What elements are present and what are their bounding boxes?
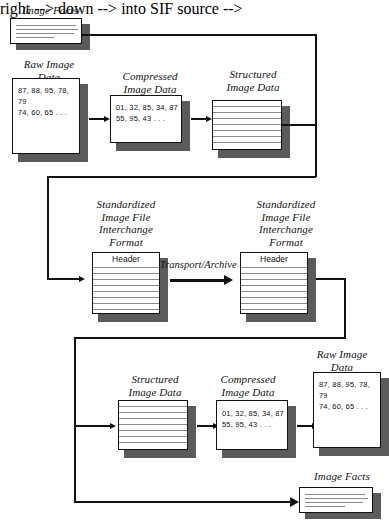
caption-structured-image-data-top: Structured Image Data xyxy=(210,68,296,93)
raw-image-data-top-document: 87, 88, 95, 78, 79 74, 60, 65 . . . xyxy=(12,78,88,162)
image-facts-bottom-document xyxy=(299,487,383,521)
edge-sif-target-out xyxy=(316,278,346,280)
raw-image-data-bottom-values: 87, 88, 95, 78, 79 74, 60, 65 . . . xyxy=(319,379,380,412)
document-sheet: 87, 88, 95, 78, 79 74, 60, 65 . . . xyxy=(313,372,381,448)
document-sheet xyxy=(299,487,373,513)
arrowhead-into-structured-bottom xyxy=(110,423,116,429)
document-sheet xyxy=(118,400,188,450)
ruled-lines xyxy=(93,253,159,313)
document-sheet xyxy=(10,18,82,44)
edge-transport-archive xyxy=(170,279,226,282)
caption-compressed-image-data-bottom: Compressed Image Data xyxy=(203,373,293,398)
document-sheet: Header xyxy=(240,252,308,314)
ruled-lines xyxy=(213,101,281,149)
caption-structured-image-data-bottom: Structured Image Data xyxy=(112,373,198,398)
compressed-image-data-bottom-document: 01, 32, 85, 34, 87 55, 95, 43 . . . xyxy=(216,400,296,458)
structured-image-data-bottom-document xyxy=(118,400,196,458)
compressed-image-data-top-document: 01, 32, 85, 34, 87 55, 95, 43 . . . xyxy=(110,95,190,151)
document-sheet: 01, 32, 85, 34, 87 55, 95, 43 . . . xyxy=(110,95,182,143)
ruled-lines xyxy=(119,401,187,449)
structured-image-data-top-document xyxy=(212,100,290,158)
edge-bus-top-to-middle xyxy=(47,176,316,178)
document-sheet xyxy=(212,100,282,150)
arrowhead-transport-archive xyxy=(224,275,233,285)
edge-structured-top-to-bus xyxy=(282,124,316,126)
caption-image-facts-top: Image Facts xyxy=(8,4,92,17)
edge-into-image-facts-bottom xyxy=(74,501,292,503)
compressed-image-data-bottom-values: 01, 32, 85, 34, 87 55, 95, 43 . . . xyxy=(222,408,284,430)
edge-into-sif-source xyxy=(47,278,81,280)
caption-raw-image-data-bottom: Raw Image Data xyxy=(299,348,385,373)
caption-image-facts-bottom: Image Facts xyxy=(300,470,384,483)
edge-bus-middle-to-bottom xyxy=(74,337,346,339)
edge-into-structured-bottom xyxy=(74,425,112,427)
edge-facts-top-horizontal xyxy=(82,34,316,36)
ruled-lines xyxy=(241,253,307,313)
edge-bus-bottom-vertical xyxy=(74,337,76,502)
raw-image-data-bottom-document: 87, 88, 95, 78, 79 74, 60, 65 . . . xyxy=(313,372,389,456)
facts-text-lines xyxy=(16,25,76,41)
image-facts-top-document xyxy=(10,18,90,50)
document-sheet: 01, 32, 85, 34, 87 55, 95, 43 . . . xyxy=(216,400,288,450)
caption-sif-source: Standardized Image File Interchange Form… xyxy=(83,198,169,248)
facts-text-lines xyxy=(305,494,367,510)
arrowhead-into-sif-source xyxy=(79,276,85,282)
document-sheet: 87, 88, 95, 78, 79 74, 60, 65 . . . xyxy=(12,78,80,154)
edge-bus-down-to-sif-source xyxy=(47,176,49,279)
edge-sif-target-down xyxy=(344,278,346,338)
sif-target-document: Header xyxy=(240,252,316,322)
caption-compressed-image-data-top: Compressed Image Data xyxy=(105,70,195,95)
sif-source-document: Header xyxy=(92,252,168,322)
raw-image-data-top-values: 87, 88, 95, 78, 79 74, 60, 65 . . . xyxy=(18,85,79,118)
compressed-image-data-top-values: 01, 32, 85, 34, 87 55, 95, 43 . . . xyxy=(116,102,178,124)
edge-label-transport-archive: Transport/Archive xyxy=(160,259,237,270)
document-sheet: Header xyxy=(92,252,160,314)
arrowhead-into-image-facts-bottom xyxy=(290,497,299,507)
caption-sif-target: Standardized Image File Interchange Form… xyxy=(243,198,329,248)
edge-facts-top-vertical xyxy=(315,34,317,177)
diagram-canvas: Image Facts Raw Image Data 87, 88, 95, 7… xyxy=(0,0,389,531)
